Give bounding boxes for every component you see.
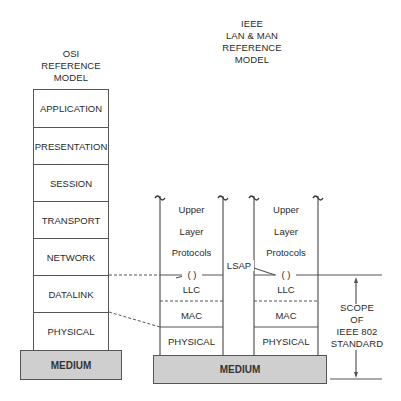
mac-label: MAC: [254, 310, 318, 321]
scope-line-1: SCOPE: [326, 302, 388, 314]
ieee-medium: MEDIUM: [153, 355, 327, 384]
scope-label: SCOPE OF IEEE 802 STANDARD: [326, 302, 388, 350]
scope-line-3: IEEE 802: [326, 326, 388, 338]
physical-label: PHYSICAL: [160, 336, 223, 347]
scope-line-4: STANDARD: [326, 338, 388, 350]
upper-layer-text-3: Protocols: [254, 247, 318, 258]
upper-layer-text-3: Protocols: [160, 247, 223, 258]
sap-circle: ( ): [276, 269, 296, 280]
upper-layer-text-1: Upper: [160, 204, 223, 215]
upper-layer-text-2: Layer: [254, 226, 318, 237]
llc-label: LLC: [160, 284, 223, 295]
scope-line-2: OF: [326, 314, 388, 326]
llc-label: LLC: [254, 284, 318, 295]
upper-layer-text-2: Layer: [160, 226, 223, 237]
sap-circle: ( ): [182, 269, 202, 280]
upper-layer-text-1: Upper: [254, 204, 318, 215]
mac-label: MAC: [160, 310, 223, 321]
physical-label: PHYSICAL: [254, 336, 318, 347]
lsap-label: LSAP: [224, 260, 254, 271]
